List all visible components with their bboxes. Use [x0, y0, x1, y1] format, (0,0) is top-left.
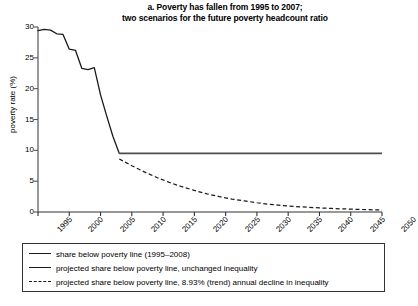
y-tick-30: 30	[12, 23, 34, 31]
chart-title: a. Poverty has fallen from 1995 to 2007;…	[60, 2, 390, 24]
y-tick-5: 5	[12, 177, 34, 185]
x-tick-2010: 2010	[149, 215, 168, 234]
y-tick-25: 25	[12, 54, 34, 62]
y-tick-15: 15	[12, 116, 34, 124]
x-tick-2030: 2030	[274, 215, 293, 234]
series-line-historical	[38, 29, 119, 153]
plot-area	[38, 27, 382, 212]
series-line-declining-inequality	[119, 159, 382, 210]
chart-title-line-2: two scenarios for the future poverty hea…	[60, 13, 390, 24]
legend-label-historical: share below poverty line (1995–2008)	[56, 250, 190, 259]
x-tick-2035: 2035	[305, 215, 324, 234]
y-tick-20: 20	[12, 85, 34, 93]
x-tick-2025: 2025	[243, 215, 262, 234]
x-tick-2000: 2000	[86, 215, 105, 234]
x-tick-2020: 2020	[212, 215, 231, 234]
x-tick-1995: 1995	[55, 215, 74, 234]
legend-swatch-solid-projected	[29, 264, 51, 272]
x-tick-2050: 2050	[399, 215, 418, 234]
y-tick-0: 0	[12, 208, 34, 216]
legend-label-declining-inequality: projected share below poverty line, 8.93…	[56, 278, 329, 287]
x-tick-2015: 2015	[180, 215, 199, 234]
chart-title-line-1: a. Poverty has fallen from 1995 to 2007;	[60, 2, 390, 13]
y-tick-10: 10	[12, 146, 34, 154]
x-tick-2045: 2045	[368, 215, 387, 234]
x-tick-2005: 2005	[118, 215, 137, 234]
x-tick-2040: 2040	[337, 215, 356, 234]
legend-swatch-solid-historical	[29, 250, 51, 258]
legend-item-declining-inequality: projected share below poverty line, 8.93…	[29, 275, 384, 289]
chart-legend: share below poverty line (1995–2008) pro…	[22, 243, 385, 292]
legend-label-unchanged-inequality: projected share below poverty line, unch…	[56, 264, 257, 273]
legend-swatch-dashed-projected	[29, 278, 51, 286]
axis-lines	[38, 27, 382, 212]
legend-item-unchanged-inequality: projected share below poverty line, unch…	[29, 261, 384, 275]
y-axis-tick-labels: 051015202530	[8, 27, 34, 212]
plot-svg	[38, 27, 382, 212]
legend-item-historical: share below poverty line (1995–2008)	[29, 247, 384, 261]
